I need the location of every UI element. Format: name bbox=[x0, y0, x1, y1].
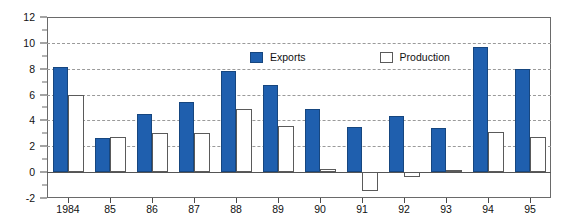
zero-axis-line bbox=[47, 172, 551, 173]
y-axis: -2024681012 bbox=[0, 0, 47, 223]
bar-chart: -2024681012 19848586878889909192939495 E… bbox=[0, 0, 575, 223]
x-tick-label-94: 94 bbox=[482, 204, 494, 215]
legend-swatch-exports-icon bbox=[250, 52, 263, 63]
legend-item-exports: Exports bbox=[250, 52, 306, 63]
x-tick-label-89: 89 bbox=[272, 204, 284, 215]
x-tick-label-91: 91 bbox=[356, 204, 368, 215]
y-tick-10 bbox=[40, 42, 47, 43]
y-tick-12 bbox=[40, 17, 47, 18]
gridline-10 bbox=[47, 43, 551, 44]
y-minor-tick-5 bbox=[42, 107, 47, 108]
y-tick-8 bbox=[40, 68, 47, 69]
legend-label-production: Production bbox=[400, 52, 450, 63]
x-tick-label-92: 92 bbox=[398, 204, 410, 215]
x-tick-label-90: 90 bbox=[314, 204, 326, 215]
x-axis: 19848586878889909192939495 bbox=[47, 198, 551, 223]
legend-swatch-production-icon bbox=[380, 52, 393, 63]
y-minor-tick-7 bbox=[42, 81, 47, 82]
gridline-6 bbox=[47, 95, 551, 96]
legend-label-exports: Exports bbox=[270, 52, 306, 63]
y-minor-tick--1 bbox=[42, 184, 47, 185]
x-tick-label-1984: 1984 bbox=[56, 204, 79, 215]
y-tick-0 bbox=[40, 172, 47, 173]
x-tick-label-88: 88 bbox=[230, 204, 242, 215]
y-minor-tick-11 bbox=[42, 29, 47, 30]
plot-area-negative bbox=[47, 172, 551, 198]
x-tick-label-93: 93 bbox=[440, 204, 452, 215]
y-tick-label-4: 4 bbox=[29, 115, 35, 126]
chart-legend: Exports Production bbox=[250, 48, 450, 66]
y-tick-label-8: 8 bbox=[29, 63, 35, 74]
x-tick-label-86: 86 bbox=[146, 204, 158, 215]
y-tick-6 bbox=[40, 94, 47, 95]
y-minor-tick-3 bbox=[42, 133, 47, 134]
x-tick-label-85: 85 bbox=[104, 204, 116, 215]
y-tick-label-0: 0 bbox=[29, 167, 35, 178]
x-tick-label-95: 95 bbox=[524, 204, 536, 215]
y-tick-2 bbox=[40, 146, 47, 147]
gridline-8 bbox=[47, 69, 551, 70]
gridline-2 bbox=[47, 146, 551, 147]
y-tick--2 bbox=[40, 197, 47, 198]
legend-item-production: Production bbox=[380, 52, 450, 63]
y-tick-label-2: 2 bbox=[29, 141, 35, 152]
y-minor-tick-9 bbox=[42, 55, 47, 56]
y-minor-tick-1 bbox=[42, 159, 47, 160]
y-tick-label-12: 12 bbox=[23, 12, 35, 23]
y-tick-label--2: -2 bbox=[26, 193, 35, 204]
y-tick-4 bbox=[40, 120, 47, 121]
gridline-4 bbox=[47, 120, 551, 121]
x-tick-label-87: 87 bbox=[188, 204, 200, 215]
y-tick-label-10: 10 bbox=[23, 38, 35, 49]
y-tick-label-6: 6 bbox=[29, 89, 35, 100]
